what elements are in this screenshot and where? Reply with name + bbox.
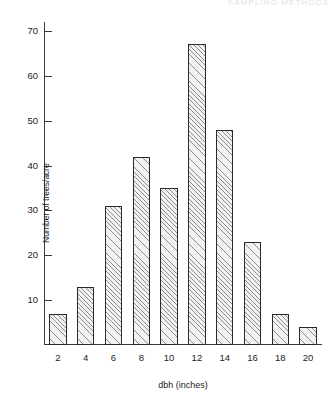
y-axis-tick-label: 10 — [27, 294, 38, 305]
x-axis-tick-label: 16 — [247, 352, 258, 363]
y-axis-tick: 60 — [45, 76, 52, 77]
y-axis-label: Number of trees/acre — [41, 163, 51, 243]
histogram-bar — [188, 44, 205, 345]
histogram-bar — [244, 242, 261, 345]
histogram-figure: SAMPLING METHODS 10203040506070 24681012… — [0, 0, 335, 405]
y-axis-tick-label: 30 — [27, 204, 38, 215]
y-axis-tick-label: 20 — [27, 249, 38, 260]
x-axis-tick-label: 8 — [139, 352, 144, 363]
x-axis-tick-label: 20 — [303, 352, 314, 363]
x-axis-label: dbh (inches) — [44, 380, 322, 390]
histogram-bar — [133, 157, 150, 345]
histogram-bar — [272, 314, 289, 345]
y-axis-tick: 10 — [45, 300, 52, 301]
x-axis-tick-label: 2 — [55, 352, 60, 363]
y-axis-tick-label: 40 — [27, 160, 38, 171]
x-axis-tick-label: 14 — [219, 352, 230, 363]
plot-area: 10203040506070 2468101214161820 — [44, 22, 322, 345]
y-axis-tick-label: 60 — [27, 70, 38, 81]
y-axis-tick-label: 50 — [27, 115, 38, 126]
y-axis-tick: 70 — [45, 31, 52, 32]
x-axis-tick-label: 6 — [111, 352, 116, 363]
x-axis-tick-label: 4 — [83, 352, 88, 363]
y-axis-tick: 50 — [45, 121, 52, 122]
histogram-bar — [299, 327, 316, 345]
x-axis-tick-label: 10 — [164, 352, 175, 363]
histogram-bar — [105, 206, 122, 345]
running-head-text: SAMPLING METHODS — [228, 0, 329, 7]
y-axis-tick: 20 — [45, 255, 52, 256]
histogram-bar — [160, 188, 177, 345]
x-axis-tick-label: 18 — [275, 352, 286, 363]
histogram-bar — [77, 287, 94, 345]
x-axis-tick-label: 12 — [192, 352, 203, 363]
histogram-bar — [49, 314, 66, 345]
histogram-bar — [216, 130, 233, 345]
y-axis-tick-label: 70 — [27, 25, 38, 36]
